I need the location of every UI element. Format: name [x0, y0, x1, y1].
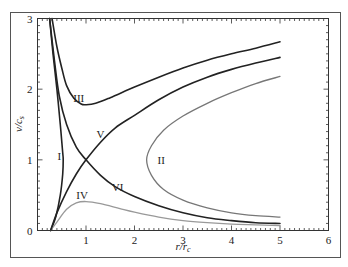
x-tick-label: 5 — [277, 234, 283, 246]
y-tick-label: 3 — [27, 13, 33, 25]
curve-iii — [52, 19, 280, 105]
x-axis-label: r/rc — [175, 240, 191, 254]
curve-label-v: V — [97, 128, 105, 140]
curve-iv — [51, 201, 280, 230]
figure-border — [11, 13, 341, 258]
curve-label-ii: II — [158, 154, 166, 166]
x-tick-label: 2 — [132, 234, 138, 246]
curve-i — [50, 19, 64, 231]
curve-v — [51, 57, 280, 230]
curve-label-vi: VI — [112, 181, 124, 193]
y-axis-label: v/cs — [12, 116, 26, 132]
curve-labels: IIIIIIIVVVI — [57, 92, 165, 202]
x-tick-label: 6 — [326, 234, 332, 246]
curve-label-iv: IV — [76, 189, 88, 201]
curve-label-iii: III — [73, 92, 84, 104]
y-tick-label: 2 — [27, 83, 33, 95]
y-tick-label: 1 — [27, 154, 33, 166]
chart-figure: IIIIIIIVVVI 1234560123 r/rc v/cs — [0, 0, 348, 267]
x-tick-label: 1 — [83, 234, 89, 246]
y-tick-label: 0 — [27, 225, 33, 237]
curve-ii — [147, 76, 280, 217]
curve-label-i: I — [57, 150, 61, 162]
x-tick-label: 4 — [229, 234, 235, 246]
tick-labels: 1234560123 — [27, 13, 332, 246]
